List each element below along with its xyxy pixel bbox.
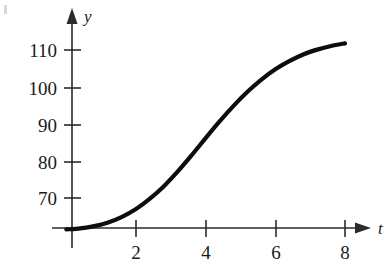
y-tick-label-80: 80: [38, 152, 57, 173]
x-tick-label-6: 6: [271, 242, 281, 263]
x-tick-label-4: 4: [201, 242, 211, 263]
data-series-curve: [66, 43, 345, 229]
x-axis-arrowhead: [355, 223, 371, 234]
y-axis-tick-labels-group: 110 100 90 80 70: [29, 40, 58, 209]
y-tick-label-90: 90: [38, 115, 57, 136]
x-axis-label: t: [378, 219, 384, 238]
figure-root: 110 100 90 80 70 2 4 6 8 y t: [0, 0, 390, 264]
y-tick-label-100: 100: [29, 78, 58, 99]
x-tick-label-8: 8: [340, 242, 350, 263]
y-axis-label: y: [82, 7, 92, 26]
y-axis-arrowhead: [67, 8, 78, 24]
y-tick-label-70: 70: [38, 188, 57, 209]
line-chart: 110 100 90 80 70 2 4 6 8 y t: [0, 0, 390, 264]
x-tick-label-2: 2: [131, 242, 141, 263]
x-axis-tick-labels-group: 2 4 6 8: [131, 242, 350, 263]
y-tick-label-110: 110: [29, 40, 57, 61]
